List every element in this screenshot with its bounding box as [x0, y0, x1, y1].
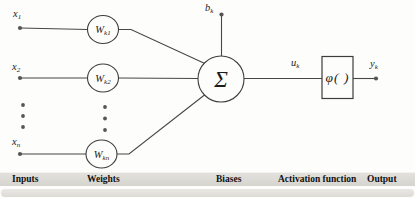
weight-label-wkn-sub: kn — [103, 153, 110, 161]
neuron-model-figure: x1 x2 xn Wk1 Wk2 Wkn bk Σ uk φ( ) yk Inp… — [0, 0, 415, 198]
net-input-label: uk — [291, 58, 299, 69]
weight-label-wk1-sub: k1 — [104, 29, 111, 37]
weight-label-wkn: Wkn — [94, 149, 109, 160]
legend-activation-function: Activation function — [278, 174, 356, 184]
activation-symbol: φ( ) — [326, 71, 350, 85]
input-label-xn-sub: n — [17, 141, 21, 149]
input-terminal-xn — [18, 152, 22, 156]
weight-label-wk1: Wk1 — [95, 25, 110, 36]
bias-terminal — [219, 12, 223, 16]
legend-output: Output — [367, 174, 397, 184]
input-ellipsis-dot — [21, 103, 25, 107]
weight-ellipsis-dot — [103, 117, 107, 121]
net-input-label-sub: k — [296, 62, 299, 70]
connector-w1-sum — [119, 30, 205, 64]
legend-inputs: Inputs — [12, 174, 38, 184]
weight-label-wk2-sub: k2 — [104, 77, 111, 85]
output-label-sub: k — [375, 63, 378, 71]
input-label-x2: x2 — [12, 62, 20, 73]
weight-label-wk2-base: W — [95, 72, 104, 83]
output-terminal — [374, 76, 378, 80]
footer-strip — [1, 189, 414, 197]
input-label-x2-sub: 2 — [17, 66, 21, 74]
legend-weights: Weights — [87, 174, 120, 184]
connector-wn-sum — [117, 95, 205, 154]
bias-label-sub: k — [210, 7, 213, 15]
input-label-xn: xn — [12, 137, 20, 148]
input-ellipsis-dot — [21, 125, 25, 129]
input-label-x1: x1 — [13, 9, 21, 20]
legend-band: Inputs Weights Biases Activation functio… — [0, 172, 415, 186]
input-terminal-x2 — [18, 76, 22, 80]
weight-label-wk1-base: W — [95, 24, 104, 35]
input-line-x1 — [20, 28, 88, 30]
bias-label: bk — [205, 3, 213, 14]
output-label: yk — [370, 59, 378, 70]
diagram-shapes — [0, 0, 415, 198]
connector-w2-sum — [119, 78, 199, 79]
input-ellipsis-dot — [21, 114, 25, 118]
weight-label-wk2: Wk2 — [95, 73, 110, 84]
legend-biases: Biases — [216, 174, 241, 184]
weight-label-wkn-base: W — [94, 148, 103, 159]
sum-symbol: Σ — [214, 68, 228, 91]
weight-ellipsis-dot — [103, 128, 107, 132]
weight-ellipsis-dot — [103, 105, 107, 109]
input-terminal-x1 — [18, 26, 22, 30]
input-label-x1-sub: 1 — [18, 13, 22, 21]
